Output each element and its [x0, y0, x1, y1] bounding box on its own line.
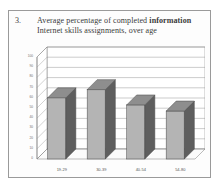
y-tick-label: 80: [21, 76, 33, 79]
y-tick-label: 20: [21, 137, 33, 140]
y-tick-label: 90: [21, 65, 33, 68]
y-tick-label: 70: [21, 86, 33, 89]
x-tick-label: 40-54: [126, 167, 156, 172]
y-tick-label: 100: [21, 55, 33, 58]
y-tick-label: 10: [21, 147, 33, 150]
figure-frame: 3. Average percentage of completed infor…: [8, 10, 211, 178]
y-axis-tick-labels: 0102030405060708090100: [19, 43, 33, 173]
figure-number: 3.: [15, 16, 37, 36]
caption-bold-term: information: [149, 16, 191, 25]
chart-canvas: [17, 43, 205, 173]
y-tick-label: 40: [21, 116, 33, 119]
y-tick-label: 30: [21, 127, 33, 130]
plot-area: [17, 43, 205, 173]
figure-caption: 3. Average percentage of completed infor…: [9, 16, 212, 36]
caption-prefix: Average percentage of completed: [37, 16, 149, 25]
figure-caption-text: Average percentage of completed informat…: [37, 16, 206, 36]
x-tick-label: 19-29: [47, 167, 77, 172]
bar-chart: 0102030405060708090100 19-2930-3940-5454…: [17, 43, 205, 173]
caption-suffix: Internet skills assignments, over age: [37, 26, 157, 35]
x-axis-tick-labels: 19-2930-3940-5454-80: [17, 161, 205, 173]
x-tick-label: 30-39: [86, 167, 116, 172]
y-tick-label: 60: [21, 96, 33, 99]
x-tick-label: 54-80: [165, 167, 195, 172]
y-tick-label: 50: [21, 106, 33, 109]
